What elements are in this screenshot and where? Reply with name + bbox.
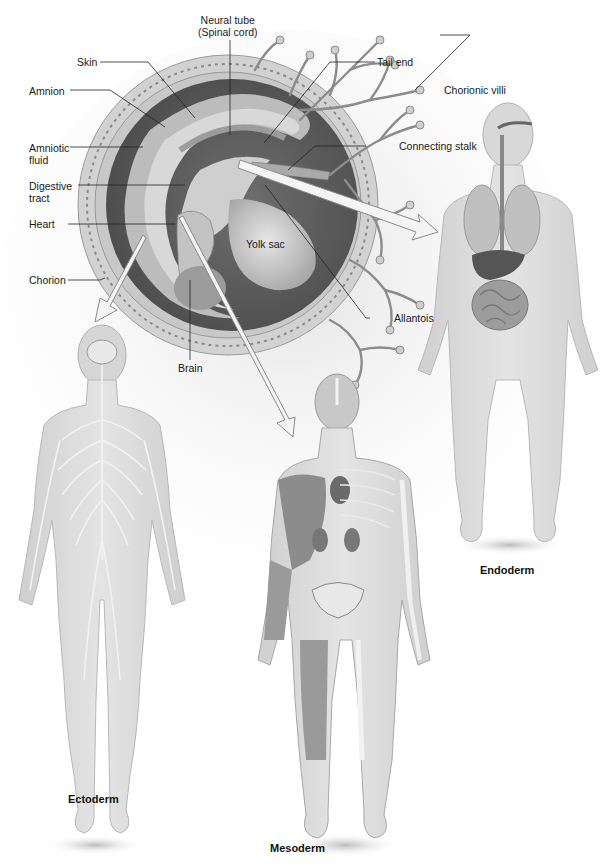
label-chorionic-villi: Chorionic villi (444, 84, 506, 96)
illustration (0, 0, 606, 867)
label-amniotic-fluid: Amniotic fluid (29, 142, 69, 166)
label-neural-tube: Neural tube (Spinal cord) (198, 14, 258, 38)
label-connecting-stalk: Connecting stalk (399, 140, 477, 152)
caption-mesoderm: Mesoderm (270, 842, 325, 854)
label-heart: Heart (29, 218, 55, 230)
label-allantois: Allantois (394, 312, 434, 324)
caption-ectoderm: Ectoderm (68, 793, 119, 805)
label-chorion: Chorion (29, 274, 66, 286)
label-skin: Skin (77, 56, 97, 68)
caption-endoderm: Endoderm (480, 564, 534, 576)
label-digestive-tract: Digestive tract (29, 180, 72, 204)
label-yolk-sac: Yolk sac (246, 238, 285, 250)
label-brain: Brain (178, 362, 203, 374)
label-amnion: Amnion (29, 85, 65, 97)
label-tail-end: Tail end (377, 56, 413, 68)
